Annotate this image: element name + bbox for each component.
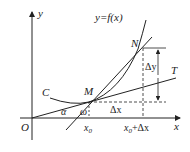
alpha-label: α	[61, 106, 67, 117]
point-m-label: M	[83, 85, 94, 97]
x0-tick-label: x0	[83, 122, 92, 135]
delta-y-label: Δy	[145, 61, 156, 72]
point-n-label: N	[130, 37, 139, 49]
secant-line	[66, 37, 152, 130]
omega-label: ω	[80, 106, 87, 117]
x0-plus-dx-tick-label: x0+Δx	[123, 122, 149, 135]
origin-label: O	[21, 121, 29, 133]
tangent-label: T	[171, 64, 178, 76]
x-axis-label: x	[173, 120, 179, 132]
delta-x-label: Δx	[110, 104, 121, 115]
tangent-line	[32, 78, 176, 118]
title-label: y=f(x)	[94, 11, 123, 24]
derivative-diagram: y=f(x) y x O N M C T α ω Δx Δy x0 x0+Δx	[0, 0, 190, 152]
curve-label: C	[42, 86, 50, 98]
y-axis-label: y	[37, 7, 43, 19]
